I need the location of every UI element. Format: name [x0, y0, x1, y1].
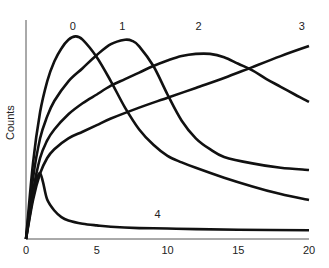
curve-label-0: 0 — [70, 20, 76, 32]
curve-label-4: 4 — [155, 208, 161, 220]
x-tick-label: 15 — [232, 244, 244, 256]
line-chart — [0, 0, 329, 268]
curve-label-3: 3 — [299, 20, 305, 32]
curve-label-1: 1 — [119, 20, 125, 32]
x-tick-label: 20 — [303, 244, 315, 256]
curve-3 — [26, 46, 309, 239]
curves — [26, 36, 309, 239]
curve-label-2: 2 — [196, 20, 202, 32]
x-tick-label: 5 — [94, 244, 100, 256]
curve-4 — [26, 173, 309, 239]
x-tick-label: 10 — [161, 244, 173, 256]
x-tick-label: 0 — [23, 244, 29, 256]
y-axis-label: Counts — [4, 105, 16, 140]
